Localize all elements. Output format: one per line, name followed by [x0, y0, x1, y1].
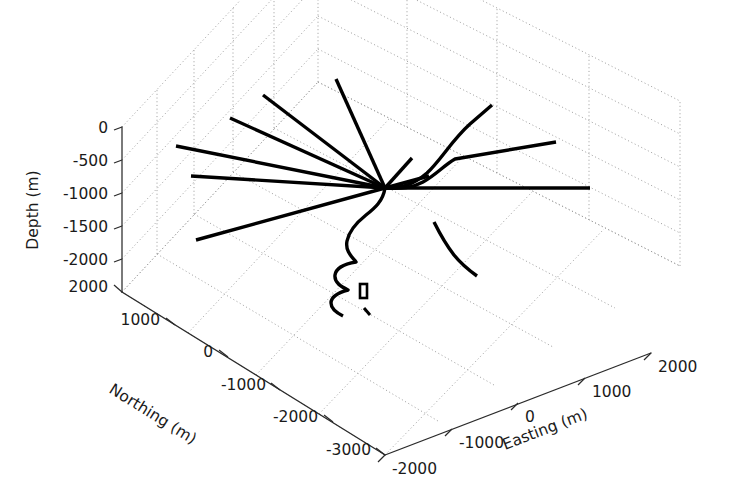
northing-tick-0: 2000 — [69, 278, 108, 296]
figure-canvas: 0 -500 -1000 -1500 -2000 2000 1000 0 -10… — [0, 0, 733, 499]
northing-tick-labels: 2000 1000 0 -1000 -2000 -3000 — [69, 278, 371, 459]
trajectory-well-13 — [434, 222, 477, 276]
right-wall-gridlines — [318, 0, 680, 266]
northing-tick-2: 0 — [203, 343, 213, 361]
northing-tick-3: -1000 — [221, 376, 266, 394]
depth-tick-4: -2000 — [63, 251, 108, 269]
easting-tick-1: -1000 — [459, 434, 504, 452]
easting-tick-0: -2000 — [392, 460, 437, 478]
trajectory-well-9 — [385, 105, 492, 188]
trajectory-well-3 — [336, 79, 385, 188]
northing-axis-line — [122, 292, 385, 455]
northing-tick-1: 1000 — [121, 311, 160, 329]
depth-tick-labels: 0 -500 -1000 -1500 -2000 — [63, 119, 108, 269]
depth-tickmarks — [114, 127, 122, 262]
depth-tick-0: 0 — [98, 119, 108, 137]
depth-axis-title: Depth (m) — [24, 170, 42, 249]
marker-box-group — [360, 284, 370, 315]
depth-tick-2: -1000 — [63, 185, 108, 203]
northing-axis-title: Northing (m) — [106, 380, 200, 448]
target-marker-box — [360, 284, 367, 298]
northing-tick-5: -3000 — [326, 441, 371, 459]
easting-axis-title: Easting (m) — [500, 405, 590, 454]
depth-tick-1: -500 — [73, 152, 108, 170]
northing-tick-4: -2000 — [273, 408, 318, 426]
plot-3d-well-trajectories: 0 -500 -1000 -1500 -2000 2000 1000 0 -10… — [0, 0, 733, 499]
easting-tick-3: 1000 — [592, 383, 631, 401]
easting-tick-4: 2000 — [658, 358, 697, 376]
trajectory-well-6 — [196, 188, 385, 240]
depth-tick-3: -1500 — [63, 218, 108, 236]
easting-tick-labels: -2000 -1000 0 1000 2000 — [392, 358, 697, 478]
well-trajectories — [176, 79, 590, 316]
